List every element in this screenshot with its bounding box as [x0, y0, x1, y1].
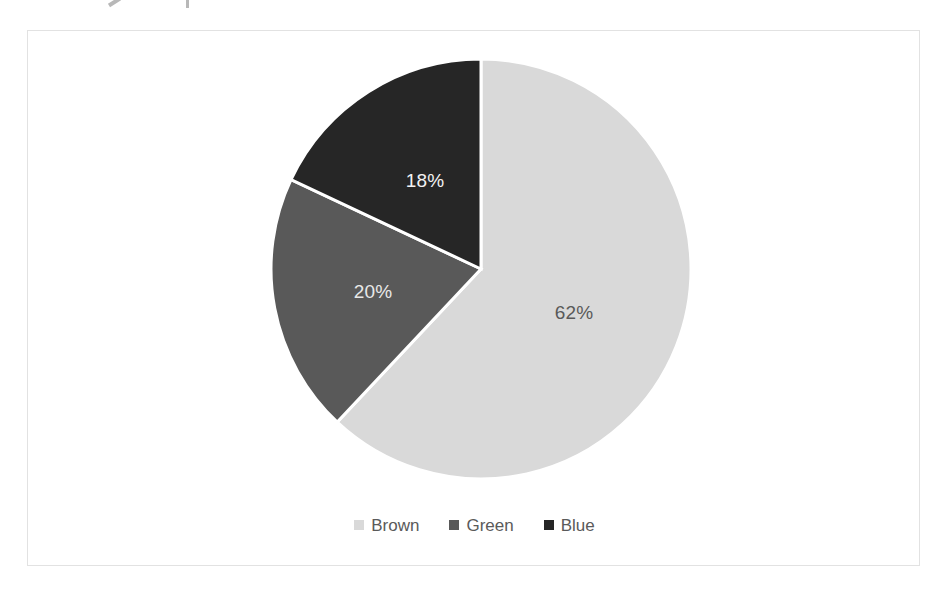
- legend-swatch-blue: [544, 520, 554, 530]
- pie-chart-plot-area: 62% 20% 18%: [28, 31, 921, 501]
- legend-item-brown[interactable]: Brown: [354, 517, 419, 534]
- chart-legend: Brown Green Blue: [28, 510, 921, 540]
- scan-artifact-mark: [108, 0, 121, 7]
- pie-slice-label-blue: 18%: [406, 170, 445, 192]
- legend-label-blue: Blue: [561, 517, 595, 534]
- scan-artifact-mark: [186, 0, 189, 8]
- legend-item-blue[interactable]: Blue: [544, 517, 595, 534]
- pie-svg: [269, 57, 693, 481]
- legend-item-green[interactable]: Green: [449, 517, 513, 534]
- legend-label-green: Green: [466, 517, 513, 534]
- pie-slices: [271, 59, 691, 479]
- pie-slice-label-brown: 62%: [555, 302, 594, 324]
- pie-graphic: [269, 57, 693, 481]
- scan-artifact: [0, 0, 949, 14]
- legend-swatch-green: [449, 520, 459, 530]
- pie-chart-frame: 62% 20% 18% Brown Green Blue: [27, 30, 920, 566]
- legend-label-brown: Brown: [371, 517, 419, 534]
- pie-slice-label-green: 20%: [354, 281, 393, 303]
- legend-swatch-brown: [354, 520, 364, 530]
